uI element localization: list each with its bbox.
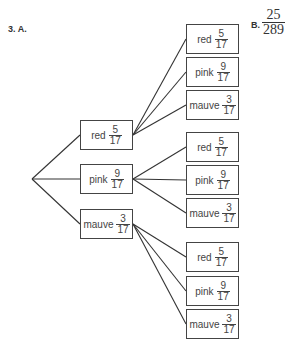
numerator: 3: [119, 214, 127, 224]
probability-fraction: 3 17: [116, 214, 129, 235]
probability-fraction: 5 17: [215, 247, 228, 268]
probability-fraction: 9 17: [111, 169, 124, 190]
numerator: 9: [219, 170, 227, 180]
denominator: 17: [217, 72, 230, 83]
denominator: 17: [109, 135, 122, 146]
node-label: mauve: [83, 219, 113, 230]
probability-fraction: 3 17: [222, 314, 235, 335]
node-level2-mauve-mauve: mauve 3 17: [186, 309, 239, 339]
denominator: 17: [215, 147, 228, 158]
numerator: 3: [225, 314, 233, 324]
answer-b-label: B.: [251, 20, 260, 30]
node-label: pink: [195, 175, 213, 186]
numerator: 9: [113, 169, 121, 179]
denominator: 17: [217, 180, 230, 191]
probability-fraction: 5 17: [215, 29, 228, 50]
node-level2-mauve-pink: pink 9 17: [186, 276, 239, 306]
node-level2-mauve-red: red 5 17: [186, 242, 239, 272]
answer-b: B. 25 289: [251, 8, 285, 37]
denominator: 17: [111, 179, 124, 190]
probability-fraction: 3 17: [222, 95, 235, 116]
node-label: mauve: [189, 208, 219, 219]
numerator: 5: [217, 247, 225, 257]
numerator: 9: [219, 281, 227, 291]
node-level1-mauve: mauve 3 17: [80, 209, 133, 239]
node-level2-red-pink: pink 9 17: [186, 57, 239, 87]
node-level1-pink: pink 9 17: [80, 164, 133, 194]
node-label: mauve: [189, 100, 219, 111]
probability-fraction: 9 17: [217, 281, 230, 302]
denominator: 17: [215, 257, 228, 268]
node-label: red: [91, 130, 105, 141]
denominator: 17: [215, 39, 228, 50]
node-label: red: [197, 34, 211, 45]
denominator: 17: [222, 324, 235, 335]
node-label: red: [197, 142, 211, 153]
node-level2-pink-pink: pink 9 17: [186, 165, 239, 195]
numerator: 9: [219, 62, 227, 72]
denominator: 17: [116, 224, 129, 235]
denominator: 289: [262, 22, 285, 37]
node-label: mauve: [189, 319, 219, 330]
question-label: 3. A.: [8, 24, 27, 34]
numerator: 5: [111, 125, 119, 135]
denominator: 17: [217, 291, 230, 302]
node-label: pink: [195, 67, 213, 78]
probability-fraction: 5 17: [215, 137, 228, 158]
node-level2-pink-red: red 5 17: [186, 132, 239, 162]
node-label: pink: [195, 286, 213, 297]
probability-fraction: 9 17: [217, 170, 230, 191]
node-level2-red-red: red 5 17: [186, 24, 239, 54]
node-label: red: [197, 252, 211, 263]
numerator: 3: [225, 203, 233, 213]
node-label: pink: [89, 174, 107, 185]
node-level2-red-mauve: mauve 3 17: [186, 90, 239, 120]
tree-branch-lines: [0, 0, 300, 356]
node-level2-pink-mauve: mauve 3 17: [186, 198, 239, 228]
numerator: 25: [266, 8, 282, 22]
denominator: 17: [222, 105, 235, 116]
answer-b-fraction: 25 289: [262, 8, 285, 37]
denominator: 17: [222, 213, 235, 224]
node-level1-red: red 5 17: [80, 120, 133, 150]
numerator: 5: [217, 29, 225, 39]
probability-fraction: 5 17: [109, 125, 122, 146]
probability-fraction: 9 17: [217, 62, 230, 83]
numerator: 5: [217, 137, 225, 147]
probability-fraction: 3 17: [222, 203, 235, 224]
numerator: 3: [225, 95, 233, 105]
